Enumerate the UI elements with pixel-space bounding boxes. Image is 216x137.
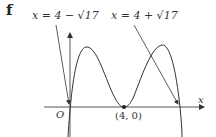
left-root-pointer [56, 25, 69, 104]
point-label: (4, 0) [115, 110, 142, 121]
curve [68, 45, 182, 137]
graph [0, 0, 216, 137]
x-axis-label: x [198, 94, 204, 105]
touch-point [122, 105, 126, 109]
origin-label: O [56, 109, 64, 120]
right-root-pointer [134, 25, 178, 104]
